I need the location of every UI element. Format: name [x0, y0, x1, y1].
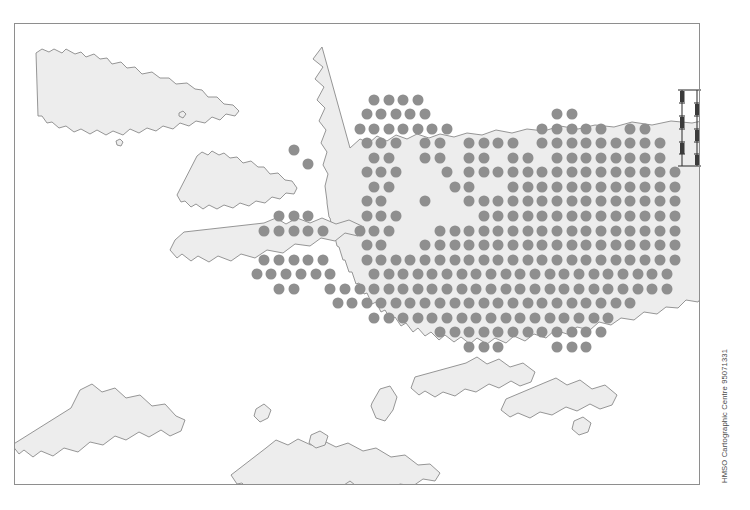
credit-label: HMSO Cartographic Centre 95071331	[720, 349, 729, 483]
map-frame	[14, 23, 700, 485]
credit-block: HMSO Cartographic Centre 95071331	[713, 283, 727, 483]
map-figure: Map 6.7a Badger HMSO Cartographic Centre…	[0, 0, 750, 510]
